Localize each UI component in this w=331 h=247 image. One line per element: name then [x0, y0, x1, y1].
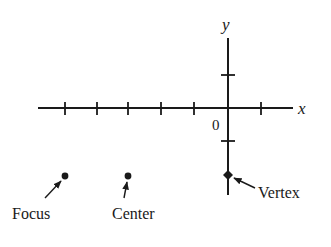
- x-axis-label: x: [297, 99, 306, 118]
- origin-label: 0: [212, 117, 220, 133]
- coordinate-diagram: x y 0 Focus Center Vertex: [0, 0, 331, 247]
- focus-arrow-icon: [45, 181, 61, 198]
- vertex-point-group: Vertex: [223, 170, 300, 201]
- vertex-point: [223, 170, 233, 180]
- center-label: Center: [112, 205, 155, 222]
- vertex-arrow-icon: [234, 178, 255, 188]
- center-point: [125, 173, 132, 180]
- center-point-group: Center: [112, 173, 155, 222]
- focus-point: [62, 173, 69, 180]
- focus-point-group: Focus: [12, 173, 68, 222]
- focus-label: Focus: [12, 205, 50, 222]
- y-axis-label: y: [220, 15, 230, 34]
- vertex-label: Vertex: [258, 184, 300, 201]
- center-arrow-icon: [124, 182, 127, 198]
